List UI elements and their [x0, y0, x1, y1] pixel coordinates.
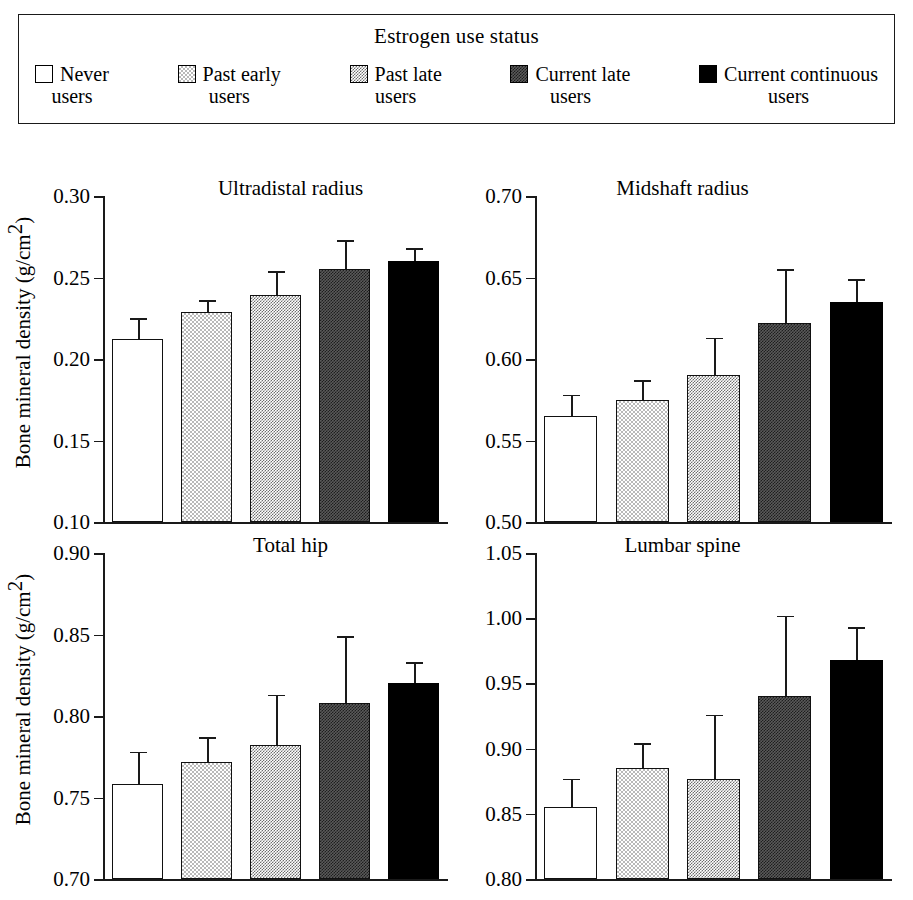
legend-title: Estrogen use status: [19, 15, 894, 47]
y-tick-label-3: 0.95: [460, 673, 522, 694]
error-bar-stem-ultradistal-radius-past-early-users: [207, 300, 209, 311]
error-bar-cap-lumbar-spine-past-late-users: [706, 715, 723, 717]
y-tick-4: [94, 196, 103, 198]
error-bar-cap-total-hip-never-users: [130, 752, 147, 754]
y-tick-0: [94, 522, 103, 524]
swatch-current-continuous-users-icon: [699, 65, 717, 83]
error-bar-cap-total-hip-current-late-users: [337, 636, 354, 638]
y-tick-4: [526, 618, 535, 620]
y-tick-label-1: 0.75: [28, 788, 90, 809]
y-tick-label-1: 0.55: [460, 431, 522, 452]
legend-label-past-early-users-line1: Past early: [203, 63, 281, 85]
bar-ultradistal-radius-current-continuous-users[interactable]: [388, 261, 439, 522]
bar-total-hip-past-late-users[interactable]: [250, 745, 301, 879]
y-tick-label-2: 0.20: [28, 349, 90, 370]
legend-label-past-late-users-line1: Past late: [375, 63, 442, 85]
y-tick-4: [526, 196, 535, 198]
error-bar-stem-midshaft-radius-never-users: [571, 395, 573, 416]
y-tick-0: [526, 522, 535, 524]
legend-item-current-late-users[interactable]: Current late users: [510, 63, 630, 108]
y-tick-label-3: 0.65: [460, 268, 522, 289]
y-tick-label-1: 0.15: [28, 431, 90, 452]
swatch-never-users-icon: [35, 65, 53, 83]
legend-item-current-continuous-users[interactable]: Current continuous users: [699, 63, 878, 108]
legend-label-current-late-users-line1: Current late: [535, 63, 630, 85]
bar-ultradistal-radius-past-early-users[interactable]: [181, 312, 232, 522]
error-bar-cap-ultradistal-radius-past-early-users: [199, 300, 216, 302]
error-bar-stem-ultradistal-radius-never-users: [138, 318, 140, 339]
error-bar-cap-midshaft-radius-current-continuous-users: [848, 279, 865, 281]
legend-item-past-late-users[interactable]: Past late users: [350, 63, 442, 108]
error-bar-stem-midshaft-radius-past-early-users: [642, 380, 644, 400]
error-bar-cap-ultradistal-radius-current-late-users: [337, 240, 354, 242]
y-tick-label-3: 0.25: [28, 268, 90, 289]
error-bar-cap-lumbar-spine-past-early-users: [634, 743, 651, 745]
y-tick-4: [94, 553, 103, 555]
error-bar-cap-lumbar-spine-current-late-users: [777, 616, 794, 618]
y-tick-2: [526, 359, 535, 361]
bar-lumbar-spine-past-late-users[interactable]: [687, 779, 740, 879]
legend-label-current-continuous-users-line1: Current continuous: [724, 63, 878, 85]
y-tick-label-5: 1.05: [460, 543, 522, 564]
legend-item-past-early-users[interactable]: Past early users: [178, 63, 281, 108]
swatch-past-early-users-icon: [178, 65, 196, 83]
bar-midshaft-radius-past-late-users[interactable]: [687, 375, 740, 522]
bar-total-hip-current-continuous-users[interactable]: [388, 683, 439, 879]
y-axis-label: Bone mineral density (g/cm2): [6, 527, 34, 872]
bar-midshaft-radius-past-early-users[interactable]: [616, 400, 669, 522]
bar-total-hip-past-early-users[interactable]: [181, 762, 232, 879]
legend-label-past-early-users-line2: users: [209, 85, 250, 107]
bar-lumbar-spine-never-users[interactable]: [544, 807, 597, 879]
y-tick-1: [526, 441, 535, 443]
swatch-current-late-users-icon: [510, 65, 528, 83]
legend-label-current-continuous-users-line2: users: [768, 85, 809, 107]
legend-box: Estrogen use status Never users Past ear…: [18, 14, 895, 124]
bar-ultradistal-radius-never-users[interactable]: [112, 339, 163, 522]
bar-total-hip-never-users[interactable]: [112, 784, 163, 879]
chart-panel-lumbar-spine: Lumbar spine0.800.850.900.951.001.05: [452, 527, 913, 887]
error-bar-cap-ultradistal-radius-never-users: [130, 318, 147, 320]
y-tick-label-2: 0.80: [28, 706, 90, 727]
error-bar-cap-ultradistal-radius-past-late-users: [268, 271, 285, 273]
swatch-past-late-users-icon: [350, 65, 368, 83]
y-tick-label-4: 0.90: [28, 543, 90, 564]
y-tick-label-4: 0.30: [28, 186, 90, 207]
bar-midshaft-radius-never-users[interactable]: [544, 416, 597, 522]
y-tick-3: [94, 635, 103, 637]
error-bar-cap-lumbar-spine-never-users: [563, 779, 580, 781]
bar-midshaft-radius-current-late-users[interactable]: [758, 323, 811, 522]
y-tick-3: [94, 278, 103, 280]
bar-lumbar-spine-current-continuous-users[interactable]: [830, 660, 883, 879]
bar-ultradistal-radius-current-late-users[interactable]: [319, 269, 370, 522]
error-bar-cap-ultradistal-radius-current-continuous-users: [406, 248, 423, 250]
legend-items: Never users Past early users Past late u…: [19, 47, 894, 108]
error-bar-stem-total-hip-never-users: [138, 752, 140, 785]
error-bar-cap-midshaft-radius-never-users: [563, 395, 580, 397]
y-axis-label: Bone mineral density (g/cm2): [6, 170, 34, 515]
bar-lumbar-spine-current-late-users[interactable]: [758, 696, 811, 879]
x-axis-line: [535, 522, 892, 524]
y-tick-1: [94, 798, 103, 800]
y-tick-3: [526, 278, 535, 280]
y-tick-3: [526, 683, 535, 685]
legend-label-current-late-users-line2: users: [550, 85, 591, 107]
error-bar-stem-lumbar-spine-current-continuous-users: [856, 627, 858, 660]
bar-ultradistal-radius-past-late-users[interactable]: [250, 295, 301, 522]
error-bar-stem-lumbar-spine-never-users: [571, 779, 573, 808]
y-tick-0: [94, 879, 103, 881]
bar-midshaft-radius-current-continuous-users[interactable]: [830, 302, 883, 522]
error-bar-stem-ultradistal-radius-current-continuous-users: [414, 248, 416, 261]
error-bar-stem-midshaft-radius-past-late-users: [714, 338, 716, 375]
error-bar-stem-lumbar-spine-current-late-users: [785, 616, 787, 697]
legend-item-never-users[interactable]: Never users: [35, 63, 109, 108]
y-axis-line: [535, 553, 537, 879]
legend-label-past-late-users-line2: users: [375, 85, 416, 107]
bar-lumbar-spine-past-early-users[interactable]: [616, 768, 669, 879]
y-tick-0: [526, 879, 535, 881]
x-axis-line: [535, 879, 892, 881]
y-tick-2: [94, 716, 103, 718]
y-tick-1: [94, 441, 103, 443]
y-axis-line: [103, 553, 105, 879]
error-bar-cap-total-hip-past-late-users: [268, 695, 285, 697]
bar-total-hip-current-late-users[interactable]: [319, 703, 370, 879]
